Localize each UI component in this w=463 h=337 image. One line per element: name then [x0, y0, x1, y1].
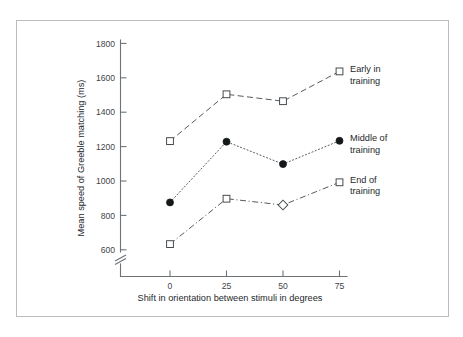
data-point-marker: [223, 195, 230, 202]
y-tick-label: 800: [101, 211, 116, 221]
data-point-marker: [278, 200, 288, 210]
y-tick-label: 600: [101, 245, 116, 255]
data-point-marker: [336, 137, 343, 144]
legend-label-line-2: training: [350, 76, 380, 86]
x-tick-label: 25: [222, 281, 232, 291]
x-tick-50: 50: [278, 271, 288, 292]
legend-label-line-1: Middle of: [350, 133, 388, 143]
data-point-marker: [223, 91, 230, 98]
axis-break-icon: [115, 255, 126, 265]
y-tick-label: 1800: [96, 39, 115, 49]
axis-group: [115, 40, 347, 277]
series-early-in-training: [167, 68, 343, 145]
data-point-marker: [336, 179, 343, 186]
legend-label-line-2: training: [350, 145, 380, 155]
y-tick-label: 1400: [96, 107, 115, 117]
y-tick-1200: 1200: [96, 142, 127, 152]
data-point-marker: [167, 241, 174, 248]
y-tick-label: 1000: [96, 176, 115, 186]
x-tick-label: 50: [278, 281, 288, 291]
series-middle-line: [170, 141, 340, 203]
x-tick-label: 75: [335, 281, 345, 291]
legend-label-line-1: End of: [350, 175, 377, 185]
figure-root: 1800 1600 1400 1200 1000 800: [0, 0, 463, 337]
series-middle-of-training: [167, 137, 344, 206]
data-point-marker: [223, 138, 230, 145]
data-point-marker: [167, 138, 174, 145]
y-tick-1800: 1800: [96, 39, 127, 49]
y-tick-label: 1200: [96, 142, 115, 152]
series-early-line: [170, 71, 340, 141]
y-tick-1000: 1000: [96, 176, 127, 186]
legend-early-in-training: Early in training: [350, 64, 381, 86]
y-tick-600: 600: [101, 245, 127, 255]
data-point-marker: [280, 161, 287, 168]
line-chart: 1800 1600 1400 1200 1000 800: [0, 0, 463, 337]
series-end-of-training: [167, 179, 343, 248]
data-point-marker: [280, 98, 287, 105]
y-tick-800: 800: [101, 211, 127, 221]
y-tick-1400: 1400: [96, 107, 127, 117]
x-tick-25: 25: [222, 271, 232, 292]
series-end-line: [170, 182, 340, 244]
x-tick-0: 0: [168, 271, 173, 292]
x-ticks: 0 25 50 75: [168, 271, 345, 292]
x-axis-title: Shift in orientation between stimuli in …: [138, 293, 323, 303]
x-tick-75: 75: [335, 271, 345, 292]
y-ticks: 1800 1600 1400 1200 1000 800: [96, 39, 127, 255]
x-tick-label: 0: [168, 281, 173, 291]
y-tick-1600: 1600: [96, 73, 127, 83]
legend-middle-of-training: Middle of training: [350, 133, 388, 155]
legend-end-of-training: End of training: [350, 175, 380, 197]
legend-label-line-2: training: [350, 186, 380, 196]
y-axis-title: Mean speed of Greeble matching (ms): [76, 80, 86, 237]
data-point-marker: [336, 68, 343, 75]
y-tick-label: 1600: [96, 73, 115, 83]
legend-label-line-1: Early in: [350, 64, 381, 74]
data-point-marker: [167, 199, 174, 206]
